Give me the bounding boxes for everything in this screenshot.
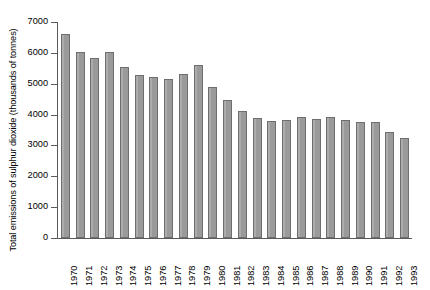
bar xyxy=(282,120,291,238)
bar xyxy=(267,121,276,238)
x-axis-tick-label: 1985 xyxy=(291,266,302,286)
y-axis-tick-label: 3000 xyxy=(6,139,48,149)
x-axis-tick-label: 1989 xyxy=(350,266,361,286)
y-axis-tick xyxy=(51,22,57,23)
x-axis-tick-label: 1972 xyxy=(99,266,110,286)
y-axis-tick-label: 6000 xyxy=(6,47,48,57)
bar xyxy=(253,118,262,238)
x-axis-tick-label: 1991 xyxy=(379,266,390,286)
x-axis-tick-label: 1975 xyxy=(143,266,154,286)
bar xyxy=(120,67,129,238)
sulphur-dioxide-emissions-bar-chart: Total emissions of sulphur dioxide (thou… xyxy=(0,0,430,290)
bar xyxy=(341,120,350,238)
y-axis-tick xyxy=(51,115,57,116)
bar xyxy=(208,87,217,238)
bar xyxy=(61,34,70,238)
y-axis-tick xyxy=(51,207,57,208)
x-axis-tick-label: 1981 xyxy=(232,266,243,286)
x-axis-tick-label: 1971 xyxy=(84,266,95,286)
bar xyxy=(238,111,247,238)
x-axis-line xyxy=(57,238,412,239)
y-axis-tick xyxy=(51,84,57,85)
bar xyxy=(194,65,203,238)
x-axis-tick-label: 1976 xyxy=(158,266,169,286)
x-axis-tick-label: 1990 xyxy=(364,266,375,286)
y-axis-tick-label: 2000 xyxy=(6,170,48,180)
bar xyxy=(76,52,85,238)
y-axis-tick xyxy=(51,238,57,239)
x-axis-tick-label: 1973 xyxy=(114,266,125,286)
y-axis-tick xyxy=(51,53,57,54)
x-axis-tick-label: 1986 xyxy=(305,266,316,286)
x-axis-tick-label: 1983 xyxy=(261,266,272,286)
bar xyxy=(312,119,321,238)
bar xyxy=(223,100,232,238)
y-axis-tick xyxy=(51,145,57,146)
x-axis-tick-label: 1970 xyxy=(69,266,80,286)
x-axis-tick-label: 1987 xyxy=(320,266,331,286)
x-axis-tick-label: 1977 xyxy=(173,266,184,286)
bar xyxy=(400,138,409,238)
y-axis-tick-label: 1000 xyxy=(6,201,48,211)
bar xyxy=(179,74,188,238)
bar xyxy=(356,122,365,238)
bar xyxy=(371,122,380,238)
x-axis-tick-label: 1978 xyxy=(187,266,198,286)
bar xyxy=(105,52,114,238)
x-axis-tick-label: 1993 xyxy=(409,266,420,286)
y-axis-tick-label: 7000 xyxy=(6,16,48,26)
x-axis-tick-label: 1979 xyxy=(202,266,213,286)
x-axis-tick-label: 1974 xyxy=(128,266,139,286)
y-axis-tick-label: 0 xyxy=(6,232,48,242)
y-axis-tick-label: 4000 xyxy=(6,109,48,119)
bar xyxy=(297,117,306,238)
x-axis-tick-label: 1988 xyxy=(335,266,346,286)
x-axis-tick-label: 1980 xyxy=(217,266,228,286)
x-axis-tick-label: 1992 xyxy=(394,266,405,286)
bar xyxy=(135,75,144,238)
x-axis-tick-label: 1982 xyxy=(246,266,257,286)
bar xyxy=(90,58,99,238)
bar xyxy=(385,132,394,238)
x-axis-tick-label: 1984 xyxy=(276,266,287,286)
bar xyxy=(164,79,173,238)
bar xyxy=(149,77,158,238)
bar xyxy=(326,117,335,238)
y-axis-tick xyxy=(51,176,57,177)
plot-area xyxy=(58,22,412,238)
y-axis-tick-label: 5000 xyxy=(6,78,48,88)
